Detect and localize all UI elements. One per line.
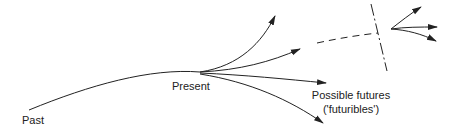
horizon-line	[371, 4, 387, 71]
future-branch-1	[200, 16, 275, 72]
far-branch-1	[391, 7, 421, 29]
futuribles-label: ('futuribles')	[323, 103, 379, 115]
futures-diagram	[0, 0, 459, 134]
futures-label: Possible futures	[312, 89, 390, 101]
dashed-extrapolation	[317, 33, 378, 43]
far-branch-3	[391, 29, 436, 41]
present-label: Present	[172, 80, 210, 92]
past-label: Past	[22, 114, 44, 126]
far-branch-2	[391, 27, 437, 29]
